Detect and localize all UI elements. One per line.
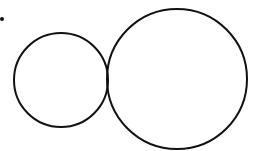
tangent-circles-diagram: [0, 0, 257, 151]
small-circle: [14, 33, 108, 127]
large-circle: [107, 9, 247, 149]
bullet-dot: [0, 17, 4, 21]
